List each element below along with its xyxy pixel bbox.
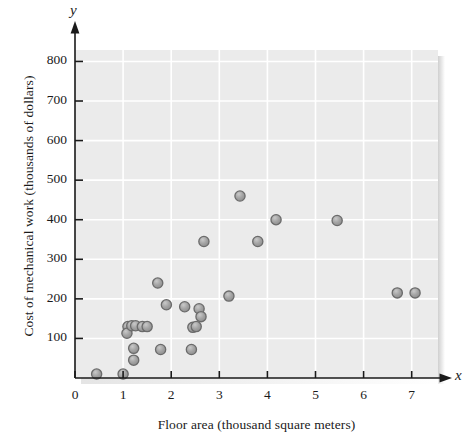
data-point [161,300,171,310]
data-point [410,288,420,298]
data-point [196,312,206,322]
data-point [199,236,209,246]
data-point [156,344,166,354]
y-tick-label: 100 [33,329,67,345]
x-tick-label: 2 [161,387,181,403]
data-point [153,278,163,288]
x-axis-title: Floor area (thousand square meters) [75,417,438,433]
x-tick-label: 5 [306,387,326,403]
data-point [142,321,152,331]
data-point [129,355,139,365]
data-point [129,343,139,353]
y-tick-label: 700 [33,92,67,108]
plot-panel-shadow-bottom [81,378,445,384]
y-tick-label: 400 [33,211,67,227]
data-point [180,302,190,312]
data-point [392,288,402,298]
data-point [271,215,281,225]
data-point [235,191,245,201]
data-point [253,236,263,246]
y-axis-letter: y [70,2,77,19]
plot-panel-shadow [438,56,445,384]
y-tick-label: 600 [33,132,67,148]
data-point [224,291,234,301]
x-tick-label: 4 [257,387,277,403]
x-axis-letter: x [455,367,462,384]
data-point [186,344,196,354]
x-tick-label: 6 [354,387,374,403]
x-tick-label: 0 [65,387,85,403]
scatter-plot-figure: 01234567100200300400500600700800 y x Cos… [0,0,475,435]
y-tick-label: 800 [33,52,67,68]
plot-canvas [0,0,475,435]
data-point [191,321,201,331]
y-axis-title: Cost of mechanical work (thousands of do… [21,41,37,371]
y-tick-label: 300 [33,250,67,266]
data-point [332,215,342,225]
y-tick-label: 200 [33,290,67,306]
x-tick-label: 3 [209,387,229,403]
x-tick-label: 7 [402,387,422,403]
y-tick-label: 500 [33,171,67,187]
x-tick-label: 1 [113,387,133,403]
